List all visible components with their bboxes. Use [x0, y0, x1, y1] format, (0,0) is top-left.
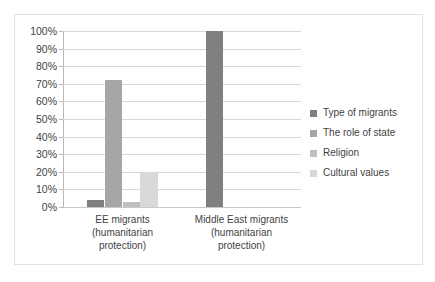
x-axis-category-label: Middle East migrants(humanitarianprotect…: [182, 213, 301, 252]
legend-label: Cultural values: [323, 167, 389, 179]
bar: [140, 172, 157, 207]
y-axis-tick-mark: [59, 101, 63, 102]
category-label-line: EE migrants: [63, 213, 182, 226]
x-axis-category-label: EE migrants(humanitarianprotection): [63, 213, 182, 252]
y-axis-tick-label: 100%: [13, 26, 57, 37]
y-axis-tick-label: 70%: [13, 78, 57, 89]
y-axis-tick-mark: [59, 31, 63, 32]
y-axis-tick-mark: [59, 154, 63, 155]
legend-item[interactable]: The role of state: [310, 123, 422, 143]
legend-label: Religion: [323, 147, 359, 159]
legend-label: The role of state: [323, 127, 395, 139]
legend-swatch-icon: [310, 130, 317, 137]
bar: [105, 80, 122, 207]
gridline: [63, 207, 301, 208]
gridline: [63, 137, 301, 138]
gridline: [63, 84, 301, 85]
legend-swatch-icon: [310, 150, 317, 157]
legend-item[interactable]: Cultural values: [310, 163, 422, 183]
y-axis-tick-mark: [59, 119, 63, 120]
y-axis-tick-mark: [59, 66, 63, 67]
category-label-line: (humanitarian: [63, 226, 182, 239]
gridline: [63, 172, 301, 173]
y-axis-tick-label: 80%: [13, 61, 57, 72]
gridline: [63, 31, 301, 32]
y-axis-tick-label: 20%: [13, 166, 57, 177]
category-label-line: Middle East migrants: [182, 213, 301, 226]
y-axis-tick-mark: [59, 49, 63, 50]
y-axis-tick-mark: [59, 137, 63, 138]
y-axis-tick-labels: 100%90%80%70%60%50%40%30%20%10%0%: [15, 31, 57, 208]
gridline: [63, 66, 301, 67]
y-axis-tick-mark: [59, 207, 63, 208]
y-axis-tick-label: 50%: [13, 114, 57, 125]
y-axis-tick-label: 40%: [13, 131, 57, 142]
y-axis-tick-mark: [59, 84, 63, 85]
chart-panel: 100%90%80%70%60%50%40%30%20%10%0% EE mig…: [14, 14, 423, 265]
y-axis-tick-label: 30%: [13, 149, 57, 160]
gridline: [63, 101, 301, 102]
y-axis-tick-label: 90%: [13, 43, 57, 54]
y-axis-tick-label: 60%: [13, 96, 57, 107]
y-axis-tick-mark: [59, 172, 63, 173]
gridline: [63, 154, 301, 155]
bar: [87, 200, 104, 207]
legend-item[interactable]: Religion: [310, 143, 422, 163]
gridline: [63, 49, 301, 50]
y-axis-tick-label: 0%: [13, 202, 57, 213]
legend-swatch-icon: [310, 170, 317, 177]
y-axis-tick-mark: [59, 189, 63, 190]
legend-label: Type of migrants: [323, 107, 397, 119]
y-axis-tick-label: 10%: [13, 184, 57, 195]
category-label-line: (humanitarian: [182, 226, 301, 239]
bar: [123, 202, 140, 207]
bar: [206, 31, 223, 207]
gridline: [63, 189, 301, 190]
category-label-line: protection): [182, 239, 301, 252]
category-label-line: protection): [63, 239, 182, 252]
chart-legend: Type of migrantsThe role of stateReligio…: [310, 103, 422, 183]
legend-item[interactable]: Type of migrants: [310, 103, 422, 123]
gridline: [63, 119, 301, 120]
legend-swatch-icon: [310, 110, 317, 117]
plot-area: [63, 31, 301, 207]
